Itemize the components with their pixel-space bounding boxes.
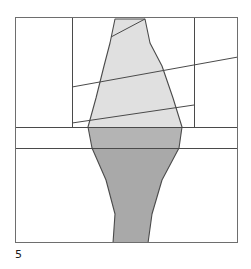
diagram-svg — [0, 0, 251, 269]
figure-caption: 5 — [15, 249, 22, 261]
figure-stage: 5 — [0, 0, 251, 269]
